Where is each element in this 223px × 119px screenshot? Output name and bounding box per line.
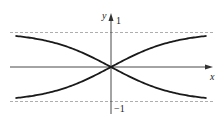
x-axis-arrow-icon: [205, 65, 213, 70]
y-axis-arrow-icon: [109, 13, 114, 21]
y-tick-label-minus-1: −1: [114, 103, 125, 114]
y-axis-label: y: [101, 10, 107, 21]
x-axis-label: x: [209, 71, 215, 82]
chart: x y 1 −1: [0, 0, 223, 119]
y-tick-label-1: 1: [116, 15, 121, 26]
